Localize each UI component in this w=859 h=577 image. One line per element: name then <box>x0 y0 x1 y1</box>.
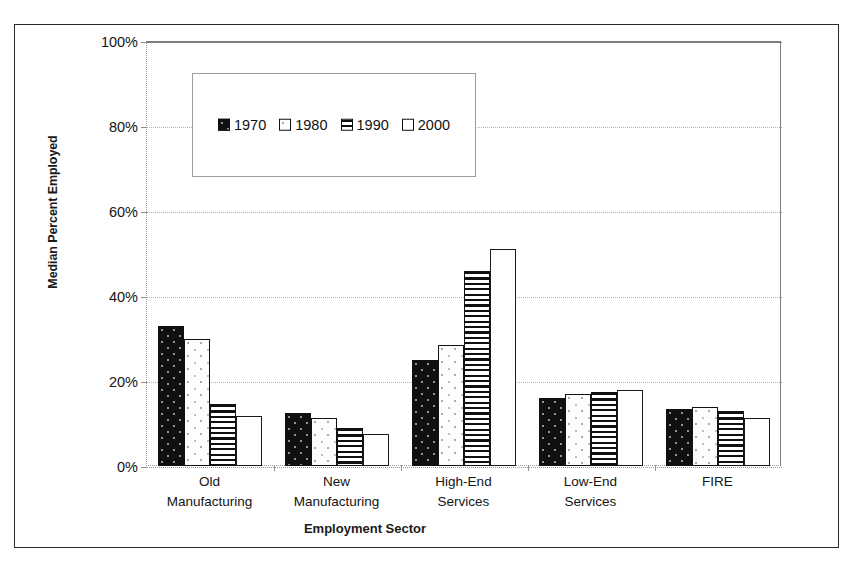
legend-item-2000[interactable]: 2000 <box>402 118 450 133</box>
y-axis-tick-label: 20% <box>109 374 138 390</box>
legend-label: 1990 <box>357 118 389 133</box>
gridline <box>147 467 782 468</box>
figure-frame: Median Percent Employed 0%20%40%60%80%10… <box>14 24 839 548</box>
x-axis-label-line: Services <box>400 492 527 512</box>
legend-item-1980[interactable]: 1980 <box>279 118 327 133</box>
bar-1980-high-end-services <box>438 345 464 466</box>
bar-1990-high-end-services <box>464 271 490 467</box>
bar-1990-low-end-services <box>591 392 617 466</box>
bar-2000-new-manufacturing <box>363 434 389 466</box>
bar-1970-fire <box>666 409 692 466</box>
bar-1970-high-end-services <box>412 360 438 466</box>
bar-1990-fire <box>718 411 744 466</box>
bar-chart: Median Percent Employed 0%20%40%60%80%10… <box>15 25 840 549</box>
bar-2000-old-manufacturing <box>236 416 262 466</box>
bar-1980-old-manufacturing <box>184 339 210 467</box>
bar-2000-high-end-services <box>490 249 516 466</box>
x-axis-label-line: New <box>273 472 400 492</box>
bar-1990-new-manufacturing <box>337 428 363 466</box>
x-axis-label-line: Old <box>146 472 273 492</box>
x-axis-label-line: Manufacturing <box>273 492 400 512</box>
bar-1970-low-end-services <box>539 398 565 466</box>
bar-1980-low-end-services <box>565 394 591 466</box>
y-axis-tick-label: 0% <box>117 459 138 475</box>
legend-label: 2000 <box>418 118 450 133</box>
x-axis-title: Employment Sector <box>15 521 715 536</box>
legend-swatch-icon-2000 <box>402 119 414 131</box>
y-axis-tick-label: 60% <box>109 204 138 220</box>
x-axis-label-old-manufacturing: OldManufacturing <box>146 472 273 511</box>
x-axis-label-line: Low-End <box>527 472 654 492</box>
x-axis-category-labels: OldManufacturingNewManufacturingHigh-End… <box>146 472 781 520</box>
x-axis-label-line: Services <box>527 492 654 512</box>
x-axis-label-line: FIRE <box>654 472 781 492</box>
bar-group <box>666 41 770 466</box>
x-axis-label-new-manufacturing: NewManufacturing <box>273 472 400 511</box>
bar-1970-new-manufacturing <box>285 413 311 466</box>
bar-1990-old-manufacturing <box>210 404 236 466</box>
bar-1980-fire <box>692 407 718 467</box>
legend-swatch-icon-1980 <box>279 119 291 131</box>
y-axis-title: Median Percent Employed <box>46 112 60 312</box>
legend: 1970198019902000 <box>192 73 476 177</box>
bar-2000-fire <box>744 418 770 466</box>
legend-item-1990[interactable]: 1990 <box>341 118 389 133</box>
x-axis-label-high-end-services: High-EndServices <box>400 472 527 511</box>
bar-group <box>539 41 643 466</box>
x-axis-label-line: High-End <box>400 472 527 492</box>
x-axis-label-low-end-services: Low-EndServices <box>527 472 654 511</box>
legend-label: 1970 <box>234 118 266 133</box>
bar-1970-old-manufacturing <box>158 326 184 466</box>
y-axis-tick-mark <box>141 467 147 468</box>
bar-2000-low-end-services <box>617 390 643 466</box>
x-axis-label-fire: FIRE <box>654 472 781 492</box>
legend-item-1970[interactable]: 1970 <box>218 118 266 133</box>
legend-items: 1970198019902000 <box>193 118 475 133</box>
y-axis-tick-label: 40% <box>109 289 138 305</box>
legend-label: 1980 <box>295 118 327 133</box>
legend-swatch-icon-1970 <box>218 119 230 131</box>
y-axis-tick-label: 100% <box>101 34 138 50</box>
x-axis-label-line: Manufacturing <box>146 492 273 512</box>
bar-1980-new-manufacturing <box>311 418 337 466</box>
y-axis-tick-label: 80% <box>109 119 138 135</box>
legend-swatch-icon-1990 <box>341 119 353 131</box>
